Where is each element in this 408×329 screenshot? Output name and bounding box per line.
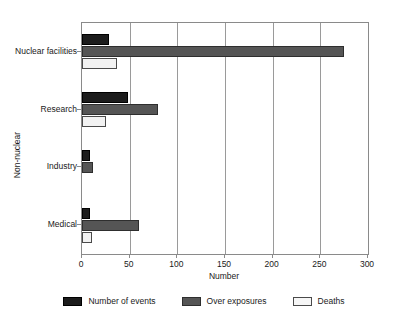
y-axis-label-nuclear-facilities: Nuclear facilities — [15, 46, 77, 56]
x-axis-title: Number — [81, 271, 367, 281]
y-axis-tick — [77, 51, 81, 52]
x-axis-tick — [367, 254, 368, 258]
x-axis-label: 250 — [299, 259, 339, 270]
y-axis-title: Non-nuclear — [12, 100, 22, 210]
x-axis-tick — [176, 254, 177, 258]
legend-item-over-exposures: Over exposures — [182, 296, 267, 306]
plot-area — [81, 22, 369, 255]
y-axis-label-industry: Industry — [47, 161, 77, 171]
bar-deaths — [82, 232, 92, 243]
x-axis-tick — [272, 254, 273, 258]
chart-legend: Number of events Over exposures Deaths — [0, 296, 408, 306]
x-axis-label: 200 — [252, 259, 292, 270]
y-axis-label-medical: Medical — [48, 219, 77, 229]
bar-over — [82, 46, 344, 57]
legend-label-events: Number of events — [88, 296, 155, 306]
gridline — [225, 23, 226, 254]
x-axis-label: 100 — [156, 259, 196, 270]
x-axis-label: 0 — [61, 259, 101, 270]
bar-deaths — [82, 58, 117, 69]
x-axis-tick — [319, 254, 320, 258]
x-axis-tick — [224, 254, 225, 258]
bar-events — [82, 34, 109, 45]
bar-over — [82, 220, 139, 231]
legend-item-events: Number of events — [63, 296, 155, 306]
legend-label-deaths: Deaths — [318, 296, 345, 306]
x-axis-label: 50 — [109, 259, 149, 270]
x-axis-tick — [81, 254, 82, 258]
bar-events — [82, 208, 90, 219]
bar-events — [82, 150, 90, 161]
bar-over — [82, 162, 93, 173]
legend-swatch-over-exposures-icon — [182, 297, 201, 306]
gridline — [177, 23, 178, 254]
gridline — [273, 23, 274, 254]
y-axis-tick — [77, 224, 81, 225]
gridline — [320, 23, 321, 254]
bar-deaths — [82, 116, 106, 127]
y-axis-label-research: Research — [41, 104, 77, 114]
x-axis-label: 300 — [347, 259, 387, 270]
legend-swatch-events-icon — [63, 297, 82, 306]
x-axis-label: 150 — [204, 259, 244, 270]
legend-label-over-exposures: Over exposures — [207, 296, 267, 306]
y-axis-tick — [77, 109, 81, 110]
x-axis-tick — [129, 254, 130, 258]
legend-swatch-deaths-icon — [293, 297, 312, 306]
legend-item-deaths: Deaths — [293, 296, 345, 306]
bar-chart: Nuclear facilitiesResearchIndustryMedica… — [0, 0, 408, 329]
bar-events — [82, 92, 128, 103]
y-axis-tick — [77, 166, 81, 167]
bar-over — [82, 104, 158, 115]
